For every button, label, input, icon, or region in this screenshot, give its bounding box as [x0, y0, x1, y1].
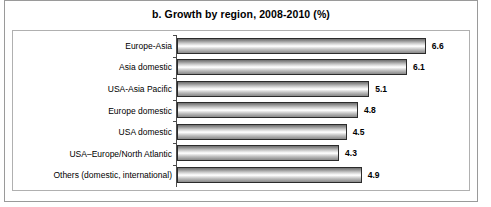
- bar[interactable]: [177, 38, 426, 54]
- axis-tick: [173, 121, 176, 122]
- bar-value-label: 6.6: [432, 41, 444, 51]
- axis-tick: [173, 35, 176, 36]
- category-label: USA-Asia Pacific: [108, 84, 176, 94]
- category-label: USA–Europe/North Atlantic: [69, 149, 176, 159]
- category-label: Europe domestic: [108, 106, 176, 116]
- bar-row: USA-Asia Pacific5.1: [13, 78, 471, 100]
- category-label: Europe-Asia: [125, 41, 176, 51]
- bar-container: 4.3: [177, 145, 357, 161]
- bar-value-label: 4.9: [368, 170, 380, 180]
- bar-row: USA–Europe/North Atlantic4.3: [13, 143, 471, 165]
- bar-row: Asia domestic6.1: [13, 57, 471, 79]
- category-label: USA domestic: [119, 127, 176, 137]
- category-label: Asia domestic: [119, 62, 176, 72]
- bar[interactable]: [177, 145, 339, 161]
- bar[interactable]: [177, 81, 369, 97]
- bar-rows: Europe-Asia6.6Asia domestic6.1USA-Asia P…: [13, 35, 471, 186]
- bar-container: 6.6: [177, 38, 444, 54]
- bar-container: 4.8: [177, 102, 376, 118]
- bar-row: USA domestic4.5: [13, 121, 471, 143]
- plot-inner: Europe-Asia6.6Asia domestic6.1USA-Asia P…: [13, 31, 471, 192]
- bar-value-label: 5.1: [375, 84, 387, 94]
- plot-area: Europe-Asia6.6Asia domestic6.1USA-Asia P…: [12, 30, 470, 191]
- bar-value-label: 4.5: [353, 127, 365, 137]
- chart-title: b. Growth by region, 2008-2010 (%): [4, 8, 478, 20]
- bar-row: Europe domestic4.8: [13, 100, 471, 122]
- axis-tick: [173, 78, 176, 79]
- axis-tick: [173, 165, 176, 166]
- bar-container: 4.5: [177, 124, 364, 140]
- bar[interactable]: [177, 102, 358, 118]
- axis-tick: [173, 100, 176, 101]
- bar-row: Others (domestic, international)4.9: [13, 165, 471, 187]
- axis-tick: [173, 143, 176, 144]
- chart-figure: b. Growth by region, 2008-2010 (%) Europ…: [0, 0, 491, 207]
- bar-value-label: 4.8: [364, 105, 376, 115]
- category-label: Others (domestic, international): [53, 170, 176, 180]
- axis-tick: [173, 57, 176, 58]
- bar-container: 5.1: [177, 81, 387, 97]
- bar-container: 6.1: [177, 59, 425, 75]
- bar[interactable]: [177, 124, 347, 140]
- bar[interactable]: [177, 59, 407, 75]
- bar-container: 4.9: [177, 167, 380, 183]
- bar-value-label: 4.3: [345, 148, 357, 158]
- bar-value-label: 6.1: [413, 62, 425, 72]
- bar[interactable]: [177, 167, 362, 183]
- bar-row: Europe-Asia6.6: [13, 35, 471, 57]
